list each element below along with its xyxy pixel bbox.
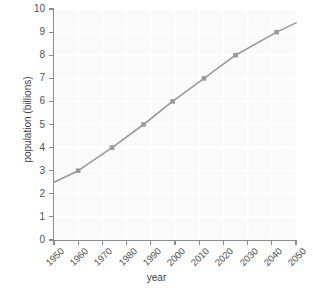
x-tick-label: 1970 [86,246,114,274]
plot-area [54,9,296,240]
x-tick-label: 2010 [183,246,211,274]
x-tick-mark [223,241,224,245]
x-tick-mark [295,241,296,245]
x-tick-mark [150,241,151,245]
data-point-marker [110,145,115,150]
data-point-marker [170,99,175,104]
y-tick-mark [49,216,53,217]
data-point-marker [76,168,81,173]
data-point-marker [233,53,238,58]
x-tick-label: 1990 [135,246,163,274]
y-tick-mark [49,124,53,125]
y-tick-mark [49,193,53,194]
x-tick-mark [102,241,103,245]
data-point-marker [274,30,279,35]
x-tick-mark [78,241,79,245]
y-tick-mark [49,78,53,79]
y-tick-mark [49,239,53,240]
x-tick-mark [53,241,54,245]
x-tick-mark [174,241,175,245]
data-point-marker [141,122,146,127]
x-tick-mark [126,241,127,245]
x-tick-label: 2030 [231,246,259,274]
x-tick-label: 2020 [207,246,235,274]
plot-canvas [54,9,296,240]
y-axis-line [53,8,54,241]
y-tick-mark [49,55,53,56]
y-tick-mark [49,147,53,148]
x-tick-mark [247,241,248,245]
x-tick-label: 2040 [256,246,284,274]
y-tick-mark [49,170,53,171]
data-point-marker [202,76,207,81]
y-axis-title: population (billions) [22,15,33,225]
x-tick-mark [199,241,200,245]
x-tick-label: 1980 [110,246,138,274]
y-tick-label: 10 [23,4,45,14]
population-line-chart: 012345678910 195019601970198019902000201… [0,0,313,290]
y-tick-label: 0 [23,235,45,245]
y-tick-mark [49,8,53,9]
x-tick-label: 2050 [280,246,308,274]
y-tick-mark [49,101,53,102]
x-axis-title: year [0,272,313,283]
x-tick-label: 1960 [62,246,90,274]
x-tick-mark [271,241,272,245]
x-tick-label: 1950 [38,246,66,274]
y-tick-mark [49,32,53,33]
x-tick-label: 2000 [159,246,187,274]
